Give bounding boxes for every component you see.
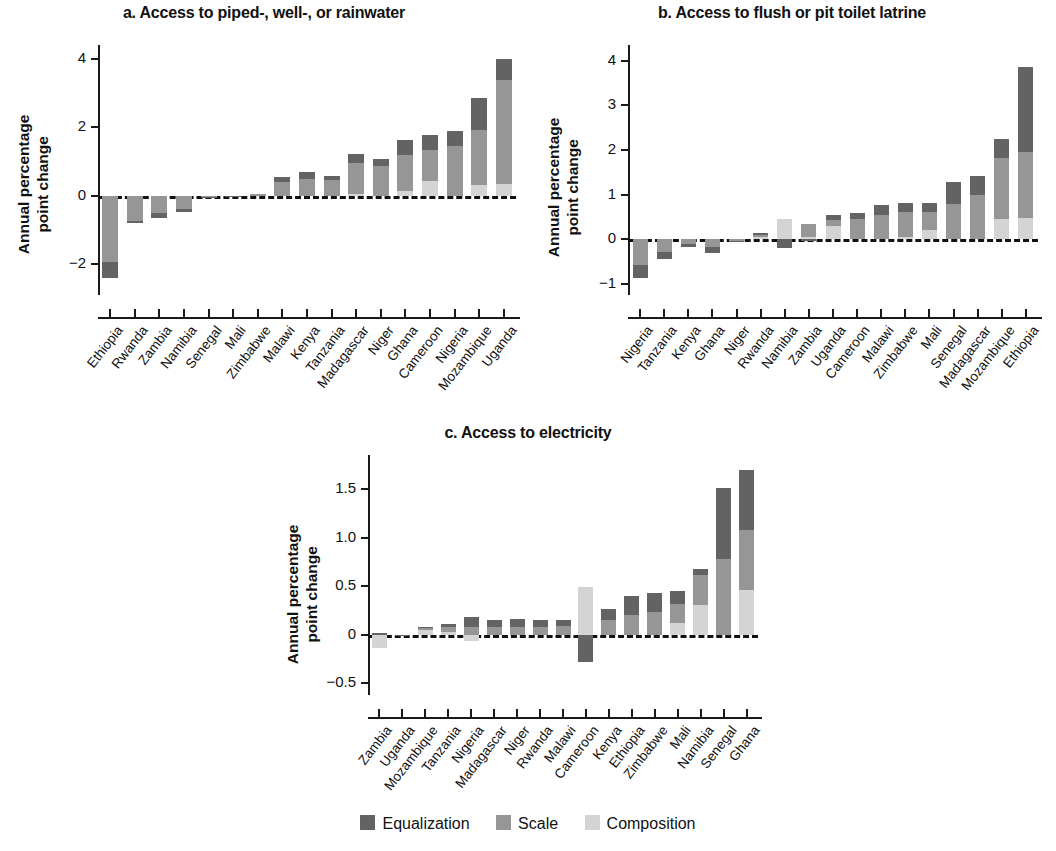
bar-segment [422, 135, 438, 150]
bar-segment [510, 627, 525, 635]
bar-segment [418, 628, 433, 630]
panel-a-y-axis-spine [98, 45, 100, 295]
bar-segment [471, 98, 487, 130]
bar-segment [705, 247, 720, 252]
panel-b-x-tick [904, 309, 906, 318]
bar-segment [970, 176, 985, 195]
bar-segment [739, 470, 754, 530]
bar-segment [274, 177, 290, 182]
bar-segment [418, 627, 433, 628]
bar-segment [601, 609, 616, 621]
panel-c-x-tick [723, 709, 725, 718]
bar-segment [510, 619, 525, 627]
bar-segment [898, 237, 913, 239]
bar-segment [801, 224, 816, 236]
bar-segment [102, 196, 118, 263]
panel-c-x-tick [447, 709, 449, 718]
bar-segment [372, 635, 387, 649]
bar-segment [922, 212, 937, 231]
panel-a-x-tick [257, 309, 259, 318]
bar-segment [739, 530, 754, 590]
bar-segment [533, 627, 548, 635]
panel-b-x-tick [856, 309, 858, 318]
bar-segment [422, 181, 438, 195]
chart-legend: Equalization Scale Composition [0, 814, 1056, 833]
panel-c-x-tick [654, 709, 656, 718]
bar-segment [348, 154, 364, 164]
panel-b-x-tick [1025, 309, 1027, 318]
bar-segment [898, 212, 913, 237]
bar-segment [274, 182, 290, 196]
y-axis-label-line-1: Annual percentage [284, 525, 301, 665]
panel-b-y-tick-label: 3 [546, 95, 616, 112]
legend-label-scale: Scale [518, 815, 558, 833]
panel-c-x-tick [585, 709, 587, 718]
panel-a: a. Access to piped-, well-, or rainwater… [0, 0, 528, 400]
panel-c-y-tick-label: 0.5 [286, 576, 356, 593]
panel-a-x-tick [109, 309, 111, 318]
bar-segment [970, 195, 985, 240]
bar-segment [753, 233, 768, 235]
bar-segment [624, 615, 639, 634]
bar-segment [729, 241, 744, 242]
bar-segment [922, 203, 937, 212]
bar-segment [826, 220, 841, 226]
panel-c-x-tick [401, 709, 403, 718]
bar-segment [946, 182, 961, 204]
panel-c-zero-line [368, 635, 758, 638]
bar-segment [994, 219, 1009, 239]
legend-label-equalization: Equalization [382, 815, 469, 833]
bar-segment [422, 150, 438, 181]
panel-b-x-tick [1001, 309, 1003, 318]
panel-b-x-tick [687, 309, 689, 318]
panel-c-y-tick [361, 682, 370, 684]
panel-b-x-tick [760, 309, 762, 318]
bar-segment [464, 635, 479, 641]
bar-segment [127, 221, 143, 223]
bar-segment [299, 172, 315, 179]
bar-segment [201, 197, 217, 198]
bar-segment [826, 215, 841, 220]
bar-segment [705, 239, 720, 247]
panel-c-y-tick [361, 488, 370, 490]
panel-b-plot-area: −101234NigeriaTanzaniaKenyaGhanaNigerRwa… [628, 45, 1038, 295]
panel-b-y-tick-label: 0 [546, 229, 616, 246]
panel-a-title: a. Access to piped-, well-, or rainwater [0, 4, 528, 22]
panel-c-y-tick-label: 1.0 [286, 528, 356, 545]
bar-segment [716, 488, 731, 559]
panel-b-y-tick [621, 149, 630, 151]
bar-segment [151, 213, 167, 218]
panel-b-x-tick [953, 309, 955, 318]
legend-swatch-equalization [360, 815, 375, 830]
bar-segment [716, 559, 731, 635]
bar-segment [397, 155, 413, 191]
panel-c-y-axis-spine [368, 455, 370, 695]
bar-segment [176, 209, 192, 212]
panel-c-x-tick [746, 709, 748, 718]
bar-segment [1018, 67, 1033, 152]
panel-b-y-tick-label: 4 [546, 51, 616, 68]
bar-segment [1018, 218, 1033, 239]
panel-a-x-tick [281, 309, 283, 318]
y-axis-label-line-1: Annual percentage [15, 115, 32, 255]
panel-c: c. Access to electricity Annual percenta… [240, 410, 816, 810]
panel-b-x-tick [977, 309, 979, 318]
panel-c-x-tick [424, 709, 426, 718]
bar-segment [418, 630, 433, 635]
panel-a-x-tick [208, 309, 210, 318]
bar-segment [693, 569, 708, 576]
panel-a-x-tick [380, 309, 382, 318]
bar-segment [487, 620, 502, 627]
panel-c-x-tick [378, 709, 380, 718]
panel-b-x-tick [639, 309, 641, 318]
panel-a-y-tick-label: 4 [16, 49, 86, 66]
bar-segment [348, 163, 364, 193]
bar-segment [670, 591, 685, 604]
bar-segment [693, 575, 708, 604]
bar-segment [898, 203, 913, 213]
bar-segment [556, 626, 571, 635]
bar-segment [647, 593, 662, 612]
panel-a-x-tick [331, 309, 333, 318]
bar-segment [127, 196, 143, 222]
panel-c-y-tick-label: 0 [286, 625, 356, 642]
